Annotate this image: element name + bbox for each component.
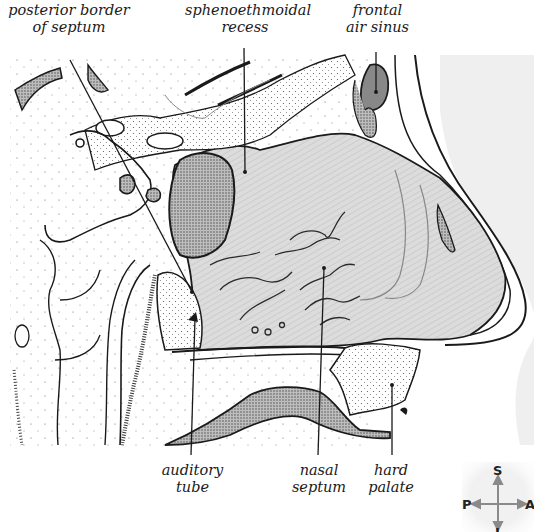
label-line: recess xyxy=(185,19,305,36)
sphenoid-sinus xyxy=(169,153,234,258)
small-sinus-1 xyxy=(120,175,135,194)
label-line: septum xyxy=(288,479,350,496)
label-line: air sinus xyxy=(340,19,415,36)
label-line: posterior border xyxy=(0,2,138,19)
compass-posterior: P xyxy=(462,498,472,511)
vessel-oval xyxy=(15,325,29,347)
label-line: sphenoethmoidal xyxy=(185,2,305,19)
label-line: hard xyxy=(362,462,420,479)
compass-superior: S xyxy=(493,464,502,477)
label-line: frontal xyxy=(340,2,415,19)
label-line: tube xyxy=(155,479,230,496)
vessel-circle xyxy=(76,139,84,147)
label-line: palate xyxy=(362,479,420,496)
anatomical-diagram: posterior border of septum sphenoethmoid… xyxy=(0,0,534,532)
label-line: of septum xyxy=(0,19,138,36)
label-frontal-air-sinus: frontal air sinus xyxy=(340,2,415,36)
label-auditory-tube: auditory tube xyxy=(155,462,230,496)
label-posterior-border-of-septum: posterior border of septum xyxy=(0,2,138,36)
roof-oval-2 xyxy=(147,133,183,149)
label-sphenoethmoidal-recess: sphenoethmoidal recess xyxy=(185,2,305,36)
compass-inferior: I xyxy=(495,526,500,532)
orientation-compass: S P A I xyxy=(462,462,534,532)
compass-anterior: A xyxy=(525,498,534,511)
label-nasal-septum: nasal septum xyxy=(288,462,350,496)
small-sinus-2 xyxy=(146,188,160,201)
incisive-canal xyxy=(400,408,407,415)
label-hard-palate: hard palate xyxy=(362,462,420,496)
nasal-cavity-illustration xyxy=(0,0,534,532)
label-line: nasal xyxy=(288,462,350,479)
label-line: auditory xyxy=(155,462,230,479)
